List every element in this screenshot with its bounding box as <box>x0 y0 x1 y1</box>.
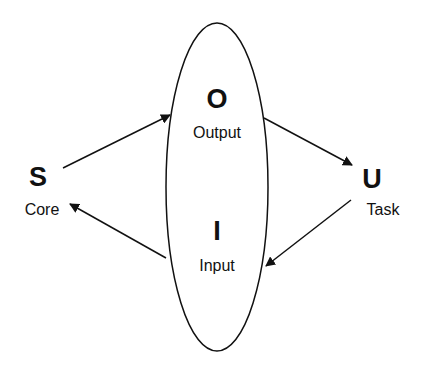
node-o-letter: O <box>206 84 227 114</box>
arrow-o-to-u <box>264 118 352 165</box>
central-ellipse <box>166 23 268 351</box>
node-o-label: Output <box>193 124 242 141</box>
node-u-label: Task <box>367 201 401 218</box>
arrow-s-to-o <box>63 115 170 168</box>
cycle-diagram: O Output I Input S Core U Task <box>0 0 423 372</box>
arrow-u-to-i <box>266 200 351 266</box>
node-i-letter: I <box>213 216 221 246</box>
node-i-label: Input <box>199 257 235 274</box>
node-s-letter: S <box>29 162 47 192</box>
node-s-label: Core <box>25 201 60 218</box>
node-u-letter: U <box>362 164 382 194</box>
arrow-i-to-s <box>70 204 166 258</box>
